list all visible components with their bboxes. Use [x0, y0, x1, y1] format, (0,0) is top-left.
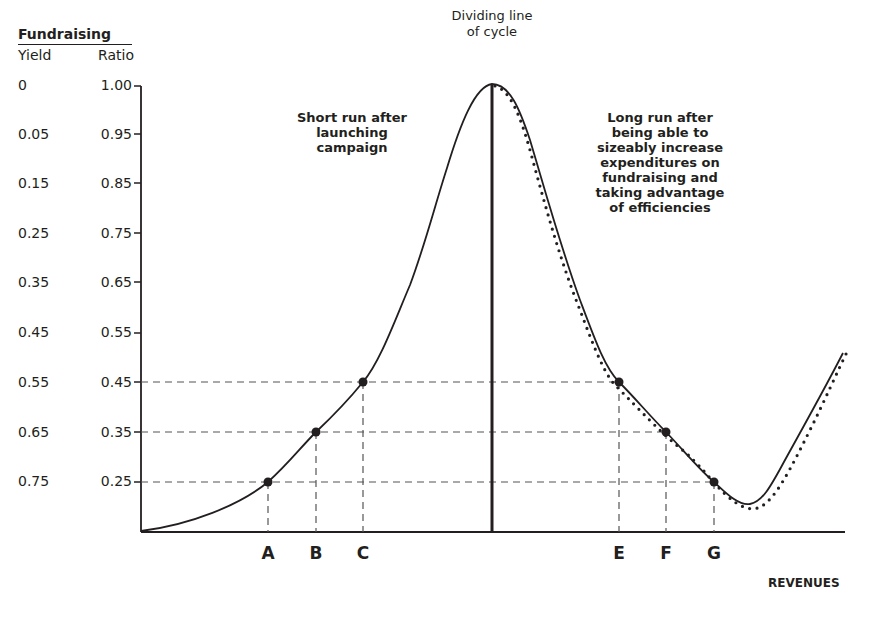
note-line: of efficiencies	[582, 200, 738, 215]
note-line: being able to	[582, 125, 738, 140]
note-line: fundraising and	[582, 170, 738, 185]
x-label-a: A	[253, 543, 283, 563]
note-line: Long run after	[582, 110, 738, 125]
divider-label-line: of cycle	[432, 24, 552, 40]
x-label-f: F	[651, 543, 681, 563]
note-line: taking advantage	[582, 185, 738, 200]
note-line: expenditures on	[582, 155, 738, 170]
x-label-b: B	[301, 543, 331, 563]
dividing-line-label: Dividing line of cycle	[432, 8, 552, 40]
x-label-g: G	[699, 543, 729, 563]
short-run-note: Short run after launching campaign	[290, 110, 414, 155]
chart-plot	[0, 0, 884, 618]
note-line: sizeably increase	[582, 140, 738, 155]
note-line: Short run after	[290, 110, 414, 125]
x-label-e: E	[604, 543, 634, 563]
note-line: campaign	[290, 140, 414, 155]
note-line: launching	[290, 125, 414, 140]
dashed-guides	[141, 382, 714, 532]
long-run-note: Long run after being able to sizeably in…	[582, 110, 738, 215]
x-axis-title: REVENUES	[768, 576, 840, 590]
x-label-c: C	[348, 543, 378, 563]
y-axis-ticks	[134, 86, 141, 482]
divider-label-line: Dividing line	[432, 8, 552, 24]
